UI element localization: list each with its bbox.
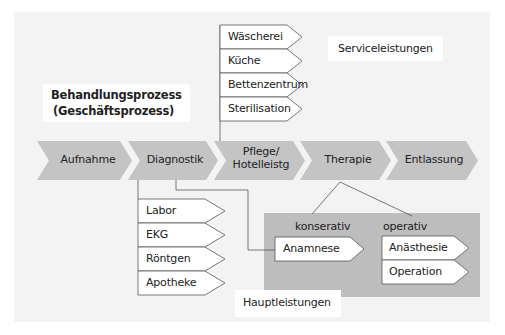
therapie-branch-lines <box>312 182 412 216</box>
step-label-aufnahme: Aufnahme <box>52 153 124 166</box>
operativ-label: operativ <box>383 220 427 233</box>
title-line-2: (Geschäftsprozess) <box>51 103 182 119</box>
diagnostik-item-label: Apotheke <box>146 276 196 289</box>
service-item-label: Wäscherei <box>228 30 283 43</box>
service-item-label: Küche <box>228 54 260 67</box>
diagnostik-item-label: Labor <box>146 204 176 217</box>
anamnese-label: Anamnese <box>283 242 340 255</box>
service-item-label: Bettenzentrum <box>228 78 308 91</box>
anaesthesie-label: Anästhesie <box>389 241 448 254</box>
step-label-pflege-line2: Hotelleistg <box>222 158 300 171</box>
diagnostik-item-label: Röntgen <box>146 252 191 265</box>
diagnostik-item-label: EKG <box>146 228 168 241</box>
hauptleistungen-label: Hauptleistungen <box>235 290 341 317</box>
step-label-entlassung: Entlassung <box>396 153 472 166</box>
konservativ-label: konserativ <box>295 220 350 233</box>
diagram-title: Behandlungsprozess (Geschäftsprozess) <box>43 84 190 122</box>
step-label-pflege: Pflege/ Hotelleistg <box>222 145 300 171</box>
service-item-label: Sterilisation <box>228 102 291 115</box>
step-label-therapie: Therapie <box>310 153 386 166</box>
step-label-diagnostik: Diagnostik <box>138 153 212 166</box>
title-line-1: Behandlungsprozess <box>51 87 182 103</box>
serviceleistungen-label: Serviceleistungen <box>328 36 443 61</box>
step-label-pflege-line1: Pflege/ <box>222 145 300 158</box>
operation-label: Operation <box>389 265 442 278</box>
